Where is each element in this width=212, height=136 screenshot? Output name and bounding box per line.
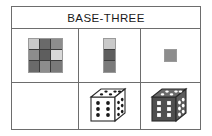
strip-square — [104, 39, 115, 50]
single-square-tile — [164, 49, 177, 62]
strip-square — [104, 50, 115, 61]
grid-square — [51, 39, 62, 50]
dark-die-icon — [148, 86, 194, 126]
grid-square — [29, 61, 40, 72]
page-root: BASE-THREE — [0, 0, 212, 136]
grid-square — [40, 50, 51, 61]
cell-white-die — [79, 83, 141, 129]
cell-three-strip — [79, 29, 141, 83]
grid-square — [40, 39, 51, 50]
cell-single-square — [141, 29, 200, 83]
cell-empty — [12, 83, 79, 129]
grid-square — [29, 50, 40, 61]
strip-square — [104, 61, 115, 72]
grid-square — [40, 61, 51, 72]
table-body — [12, 29, 200, 129]
white-die-icon — [87, 86, 133, 126]
three-strip-tile — [103, 38, 116, 73]
cell-nine-grid — [12, 29, 79, 83]
cell-dark-die — [141, 83, 200, 129]
grid-square — [51, 50, 62, 61]
nine-grid-tile — [28, 38, 63, 73]
grid-square — [29, 39, 40, 50]
grid-square — [51, 61, 62, 72]
table-title-row: BASE-THREE — [12, 7, 200, 29]
base-three-table: BASE-THREE — [11, 6, 201, 130]
page-title: BASE-THREE — [67, 12, 145, 24]
